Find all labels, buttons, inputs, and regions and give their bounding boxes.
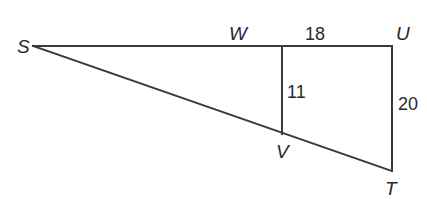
- point-label-v: V: [276, 141, 291, 162]
- segment-st: [33, 46, 392, 171]
- point-label-w: W: [229, 23, 249, 44]
- point-label-t: T: [385, 178, 398, 199]
- measure-wu: 18: [305, 24, 325, 44]
- point-label-s: S: [17, 36, 30, 57]
- measure-ut: 20: [398, 94, 418, 114]
- triangle-diagram: S W U V T 18 11 20: [0, 0, 427, 199]
- point-label-u: U: [396, 23, 410, 44]
- measure-wv: 11: [287, 82, 306, 102]
